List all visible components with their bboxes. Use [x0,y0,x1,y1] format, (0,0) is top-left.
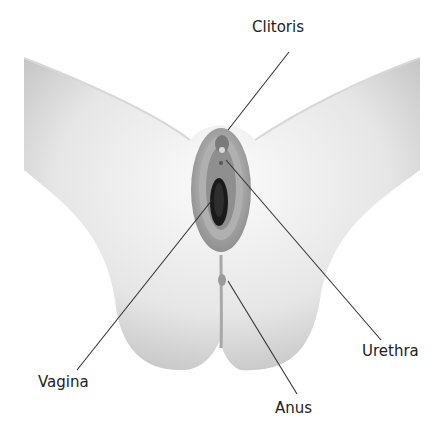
label-vagina: Vagina [38,373,89,391]
anatomy-diagram: Clitoris Urethra Vagina Anus [0,0,442,442]
urethral-opening [219,161,223,165]
label-anus: Anus [275,399,312,417]
label-clitoris: Clitoris [252,18,304,36]
anus [218,274,226,286]
leader-line-clitoris [228,52,289,130]
label-urethra: Urethra [362,342,419,360]
